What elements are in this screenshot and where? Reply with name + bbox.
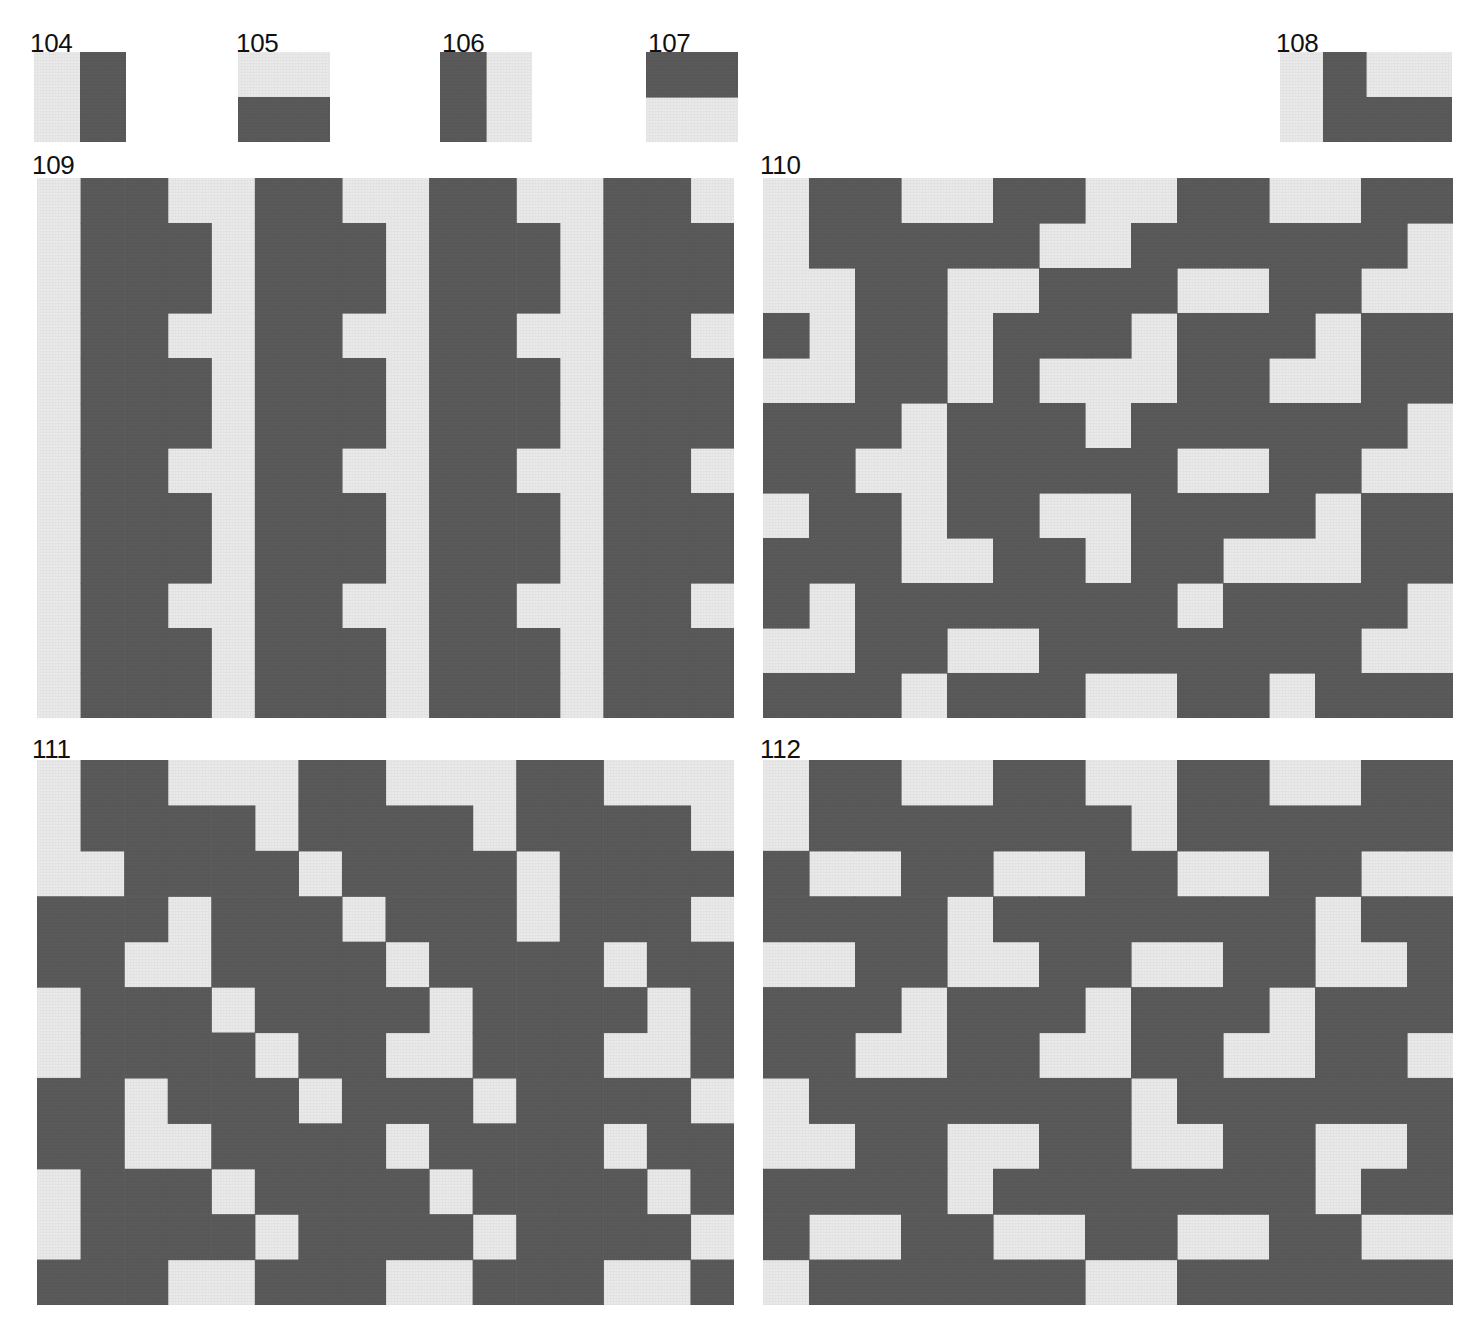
- swatch-graphic-106: [440, 52, 532, 142]
- swatch-graphic-105: [238, 52, 330, 142]
- swatch-graphic-104: [34, 52, 126, 142]
- swatch-graphic-107: [646, 52, 738, 142]
- figure-number-111: 111: [32, 736, 71, 762]
- pattern-panel-110: [763, 178, 1453, 718]
- pattern-plate: 104105106107108109110111112: [0, 0, 1476, 1322]
- pattern-graphic-111: [37, 760, 734, 1305]
- swatch-tile-105: [238, 52, 330, 142]
- pattern-panel-112: [763, 760, 1453, 1305]
- figure-number-109: 109: [32, 152, 74, 178]
- pattern-graphic-112: [763, 760, 1453, 1305]
- figure-number-112: 112: [760, 736, 801, 762]
- pattern-graphic-109: [37, 178, 734, 718]
- figure-number-110: 110: [760, 152, 801, 178]
- pattern-panel-109: [37, 178, 734, 718]
- swatch-tile-107: [646, 52, 738, 142]
- pattern-panel-111: [37, 760, 734, 1305]
- swatch-graphic-108: [1280, 52, 1452, 142]
- swatch-tile-106: [440, 52, 532, 142]
- pattern-graphic-110: [763, 178, 1453, 718]
- swatch-tile-104: [34, 52, 126, 142]
- swatch-tile-108: [1280, 52, 1452, 142]
